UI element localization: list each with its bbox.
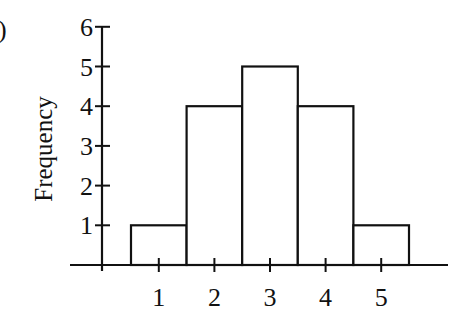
bars bbox=[131, 67, 409, 266]
y-tick-label: 6 bbox=[80, 13, 93, 42]
x-tick-label: 2 bbox=[208, 283, 221, 312]
bar-4 bbox=[298, 106, 354, 265]
histogram-chart: ) Frequency 123456 12345 bbox=[0, 0, 471, 321]
bar-2 bbox=[187, 106, 243, 265]
y-axis-label: Frequency bbox=[30, 96, 57, 202]
x-tick-label: 4 bbox=[319, 283, 332, 312]
y-tick-label: 3 bbox=[80, 132, 93, 161]
x-tick-label: 1 bbox=[152, 283, 165, 312]
y-tick-label: 4 bbox=[80, 92, 93, 121]
x-tick-label: 5 bbox=[375, 283, 388, 312]
y-tick-label: 5 bbox=[80, 53, 93, 82]
y-tick-label: 2 bbox=[80, 172, 93, 201]
bar-3 bbox=[242, 67, 298, 266]
x-tick-label: 3 bbox=[264, 283, 277, 312]
y-tick-label: 1 bbox=[80, 211, 93, 240]
panel-label: ) bbox=[0, 15, 7, 44]
y-ticks: 123456 bbox=[80, 13, 110, 241]
